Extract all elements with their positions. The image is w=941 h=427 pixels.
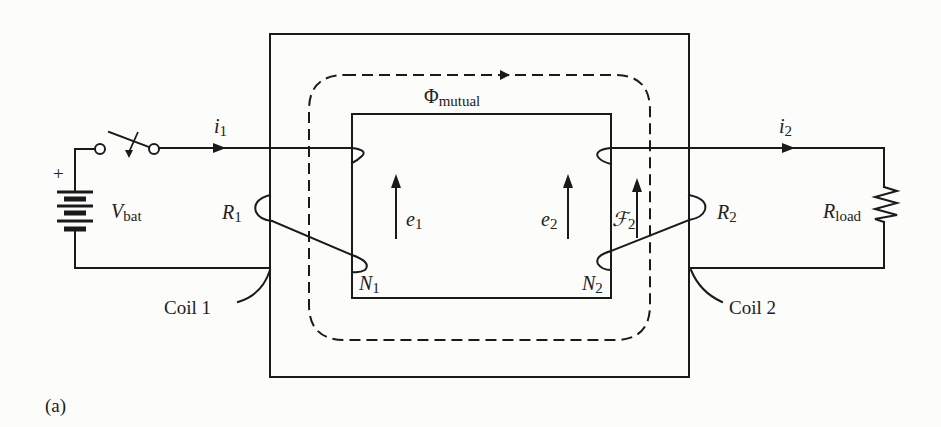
- mutual-flux-path: Φmutual: [309, 70, 650, 340]
- coil-1-callout-leader: [238, 270, 270, 302]
- current-i1-arrow-icon: [213, 143, 226, 153]
- current-i2-label: i2: [779, 115, 792, 139]
- coil-1-resistance-label: R1: [221, 201, 242, 225]
- emf-e2-arrow-icon: [563, 174, 573, 188]
- panel-label: (a): [45, 395, 66, 417]
- magnetic-core: [270, 34, 689, 377]
- flux-label: Φmutual: [424, 85, 480, 109]
- coil-2-callout: Coil 2: [729, 297, 776, 318]
- turns-n1-label: N1: [358, 272, 380, 296]
- battery-polarity-plus: +: [53, 163, 64, 184]
- battery-voltage-label: Vbat: [111, 200, 142, 224]
- turns-n2-label: N2: [581, 272, 603, 296]
- coil-2-resistance-label: R2: [716, 201, 737, 225]
- load-resistance-label: Rload: [822, 200, 862, 224]
- transformer-diagram: Φmutual + Vbat i1: [0, 0, 941, 427]
- secondary-circuit: i2 Rload R2 e2 ℱ2 N2 Coil 2: [541, 115, 897, 318]
- current-i2-arrow-icon: [782, 143, 795, 153]
- switch-icon: [95, 132, 159, 158]
- coil-1-callout: Coil 1: [164, 297, 211, 318]
- core-window: [352, 114, 611, 298]
- coil-1-winding: [255, 148, 367, 272]
- mmf-f2-arrow-icon: [632, 178, 642, 192]
- emf-e2-label: e2: [541, 208, 557, 232]
- load-resistor-icon: [875, 187, 897, 222]
- core-outer-edge: [270, 34, 689, 377]
- mmf-f2-label: ℱ2: [612, 208, 636, 232]
- flux-direction-arrow-icon: [500, 70, 510, 80]
- emf-e1-arrow-icon: [391, 174, 401, 188]
- coil-2-callout-leader: [691, 270, 722, 302]
- current-i1-label: i1: [214, 115, 227, 139]
- emf-e1-label: e1: [406, 208, 422, 232]
- primary-circuit: + Vbat i1 R1 e1 N1: [53, 115, 422, 318]
